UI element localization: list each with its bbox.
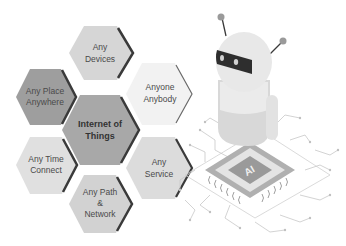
center-label: Things: [85, 131, 115, 141]
hex-any-place: Any Place Anywhere: [16, 69, 76, 125]
antenna-right-tip: [280, 38, 287, 45]
hex-label: Any Place: [26, 86, 65, 96]
hex-label: Connect: [30, 165, 62, 175]
hex-label: Anyone: [146, 82, 175, 92]
hex-label: Anybody: [143, 94, 177, 104]
hex-label: Devices: [85, 54, 115, 64]
hex-any-devices: Any Devices: [69, 26, 133, 80]
antenna-left: [222, 18, 226, 36]
center-label: Internet of: [78, 119, 123, 129]
hex-label: Any Path: [83, 187, 118, 197]
hex-label: Any: [93, 42, 108, 52]
hex-center-iot: Internet of Things: [62, 95, 139, 165]
hex-anyone: Anyone Anybody: [126, 63, 192, 125]
hex-any-time: Any Time Connect: [16, 137, 77, 194]
hex-label: Service: [145, 169, 174, 179]
ai-chip: AI: [205, 142, 295, 204]
hex-any-path: Any Path & Network: [69, 175, 132, 233]
hex-label: Anywhere: [26, 97, 64, 107]
robot-eye-right: [234, 59, 238, 65]
robot-arm: [266, 95, 278, 140]
iot-diagram: Any Devices Any Place Anywhere Anyone An…: [0, 0, 346, 246]
hex-label: Network: [84, 209, 116, 219]
hex-label: &: [97, 198, 103, 208]
robot-eye-left: [220, 55, 224, 61]
hex-any-service: Any Service: [126, 137, 192, 199]
robot: [216, 14, 287, 147]
hexagon-cluster: Any Devices Any Place Anywhere Anyone An…: [16, 26, 192, 233]
hex-label: Any: [152, 157, 167, 167]
hex-label: Any Time: [28, 154, 64, 164]
robot-ai-illustration: AI: [179, 14, 339, 233]
antenna-left-tip: [218, 14, 225, 21]
